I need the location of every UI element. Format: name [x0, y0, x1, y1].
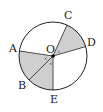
- label-a: A: [8, 42, 18, 55]
- angle-mark-aob: ×: [44, 56, 47, 61]
- label-d: D: [87, 36, 96, 49]
- label-b: B: [18, 79, 26, 92]
- circle-diagram: × × × O A B C D E: [0, 0, 103, 112]
- label-c: C: [64, 9, 72, 22]
- angle-mark-cod: ×: [57, 49, 60, 54]
- angle-mark-boe: ×: [49, 61, 52, 66]
- label-e: E: [50, 93, 58, 106]
- label-o: O: [46, 43, 55, 56]
